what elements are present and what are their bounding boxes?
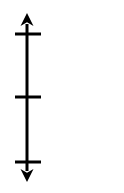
- vertical-number-line-svg: [0, 0, 124, 193]
- figure-root: [0, 0, 124, 193]
